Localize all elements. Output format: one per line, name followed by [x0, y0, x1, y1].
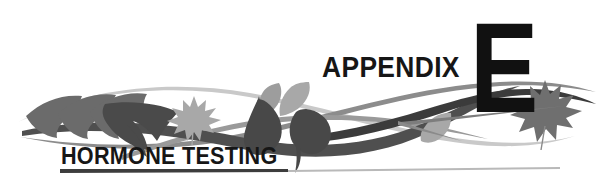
appendix-header-banner: APPENDIX E HORMONE TESTING — [0, 0, 615, 180]
title-rule-light — [288, 167, 560, 172]
title-rule-dark — [60, 169, 288, 173]
appendix-label: APPENDIX — [322, 52, 460, 82]
appendix-letter: E — [470, 4, 538, 132]
page-title: HORMONE TESTING — [61, 144, 277, 168]
